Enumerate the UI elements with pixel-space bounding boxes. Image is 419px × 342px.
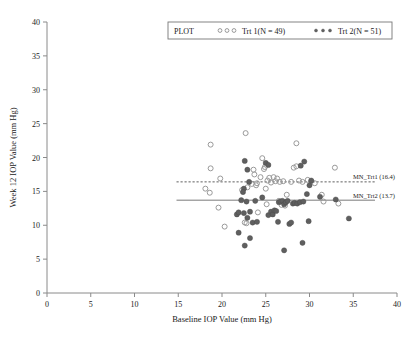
data-point-trt2 bbox=[307, 183, 312, 188]
data-point-trt2 bbox=[247, 209, 252, 214]
data-point-trt1 bbox=[208, 142, 213, 147]
chart-root: 05101520253035400510152025303540Baseline… bbox=[0, 0, 419, 342]
data-point-trt2 bbox=[289, 220, 294, 225]
y-tick-label: 5 bbox=[36, 255, 40, 264]
legend-marker-trt2 bbox=[322, 29, 325, 32]
legend-marker-trt1 bbox=[218, 29, 222, 33]
data-point-trt1 bbox=[263, 186, 268, 191]
y-tick-label: 10 bbox=[32, 221, 40, 230]
scatter-plot-figure: 05101520253035400510152025303540Baseline… bbox=[0, 0, 419, 342]
y-tick-label: 40 bbox=[32, 18, 40, 27]
data-point-trt2 bbox=[301, 199, 306, 204]
data-point-trt2 bbox=[298, 163, 303, 168]
data-point-trt1 bbox=[258, 175, 263, 180]
data-point-trt2 bbox=[309, 178, 314, 183]
x-tick-label: 40 bbox=[393, 300, 401, 309]
data-point-trt1 bbox=[264, 202, 269, 207]
data-point-trt2 bbox=[300, 240, 305, 245]
data-point-trt2 bbox=[282, 248, 287, 253]
y-tick-label: 30 bbox=[32, 86, 40, 95]
data-point-trt2 bbox=[245, 167, 250, 172]
chart-canvas: 05101520253035400510152025303540Baseline… bbox=[0, 0, 419, 342]
data-point-trt1 bbox=[294, 141, 299, 146]
x-tick-label: 10 bbox=[131, 300, 139, 309]
y-tick-label: 15 bbox=[32, 187, 40, 196]
data-point-trt1 bbox=[251, 167, 256, 172]
data-point-trt2 bbox=[285, 198, 290, 203]
data-point-trt2 bbox=[274, 208, 279, 213]
data-point-trt2 bbox=[247, 236, 252, 241]
x-tick-label: 15 bbox=[174, 300, 182, 309]
legend-marker-trt1 bbox=[232, 29, 236, 33]
reference-line-label-1: MN_Trt1 (16.4) bbox=[353, 173, 395, 181]
x-axis-title: Baseline IOP Value (mm Hg) bbox=[172, 314, 272, 324]
y-tick-label: 35 bbox=[32, 52, 40, 61]
legend-marker-trt2 bbox=[315, 29, 318, 32]
data-point-trt1 bbox=[218, 176, 223, 181]
legend-title: PLOT bbox=[174, 27, 194, 36]
legend-label-trt2: Trt 2(N = 51) bbox=[338, 27, 381, 36]
legend-marker-trt2 bbox=[329, 29, 332, 32]
data-point-trt2 bbox=[306, 219, 311, 224]
data-point-trt2 bbox=[241, 210, 246, 215]
data-point-trt1 bbox=[207, 190, 212, 195]
y-tick-label: 0 bbox=[36, 289, 40, 298]
data-point-trt1 bbox=[222, 224, 227, 229]
data-point-trt2 bbox=[317, 194, 322, 199]
data-point-trt2 bbox=[242, 243, 247, 248]
data-point-trt2 bbox=[253, 198, 258, 203]
y-tick-label: 25 bbox=[32, 120, 40, 129]
data-point-trt1 bbox=[281, 179, 286, 184]
y-tick-label: 20 bbox=[32, 154, 40, 163]
data-point-trt2 bbox=[245, 215, 250, 220]
data-point-trt2 bbox=[302, 159, 307, 164]
data-point-trt2 bbox=[346, 216, 351, 221]
data-point-trt2 bbox=[247, 179, 252, 184]
x-tick-label: 25 bbox=[262, 300, 270, 309]
x-tick-label: 30 bbox=[306, 300, 314, 309]
data-point-trt2 bbox=[239, 198, 244, 203]
data-point-trt2 bbox=[242, 158, 247, 163]
data-point-trt1 bbox=[252, 172, 257, 177]
data-point-trt1 bbox=[255, 210, 260, 215]
data-point-trt2 bbox=[260, 195, 265, 200]
data-point-trt1 bbox=[203, 186, 208, 191]
data-point-trt2 bbox=[240, 189, 245, 194]
data-point-trt2 bbox=[236, 230, 241, 235]
data-point-trt1 bbox=[284, 192, 289, 197]
x-tick-label: 20 bbox=[218, 300, 226, 309]
data-point-trt1 bbox=[216, 205, 221, 210]
data-point-trt1 bbox=[243, 131, 248, 136]
reference-line-label-2: MN_Trt2 (13.7) bbox=[353, 192, 395, 200]
data-point-trt1 bbox=[332, 165, 337, 170]
data-point-trt2 bbox=[236, 210, 241, 215]
data-point-trt2 bbox=[304, 191, 309, 196]
data-point-trt2 bbox=[333, 197, 338, 202]
data-point-trt2 bbox=[275, 219, 280, 224]
x-tick-label: 35 bbox=[349, 300, 357, 309]
x-tick-label: 5 bbox=[89, 300, 93, 309]
data-point-trt2 bbox=[266, 162, 271, 167]
data-point-trt1 bbox=[260, 156, 265, 161]
x-tick-label: 0 bbox=[45, 300, 49, 309]
legend-marker-trt1 bbox=[225, 29, 229, 33]
data-point-trt2 bbox=[244, 199, 249, 204]
data-point-trt2 bbox=[254, 219, 259, 224]
legend-label-trt1: Trt 1(N = 49) bbox=[242, 27, 285, 36]
y-axis-title: Week 12 IOP Value (mm Hg) bbox=[8, 107, 18, 207]
data-point-trt1 bbox=[208, 166, 213, 171]
